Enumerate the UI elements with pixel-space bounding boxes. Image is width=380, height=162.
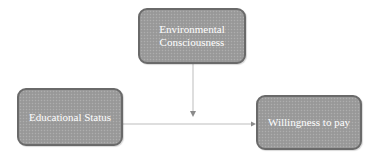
node-label: Willingness to pay (268, 116, 350, 129)
node-educational-status: Educational Status (17, 88, 123, 146)
arrowhead-moderator-icon (190, 111, 196, 117)
node-label: Educational Status (29, 111, 111, 124)
node-environmental-consciousness: Environmental Consciousness (138, 8, 246, 64)
node-willingness-to-pay: Willingness to pay (256, 95, 362, 150)
node-label: Environmental Consciousness (159, 23, 224, 49)
